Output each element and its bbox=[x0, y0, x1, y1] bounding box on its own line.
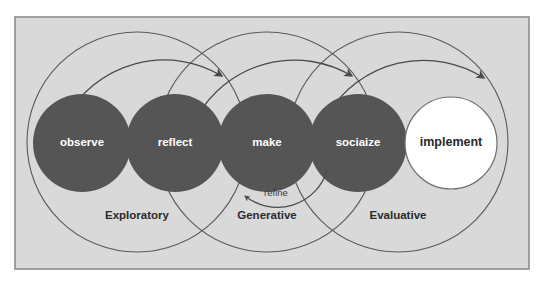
node-label-reflect: reflect bbox=[158, 136, 193, 148]
node-label-observe: observe bbox=[60, 136, 104, 148]
node-label-socialize: sociaize bbox=[336, 136, 381, 148]
node-reflect[interactable]: reflect bbox=[126, 94, 224, 192]
process-nodes: observe reflect make sociaize implement bbox=[33, 94, 497, 192]
phase-label-generative: Generative bbox=[237, 209, 296, 221]
phase-label-exploratory: Exploratory bbox=[105, 209, 170, 221]
edge-label-refine: refine bbox=[264, 187, 288, 198]
node-observe[interactable]: observe bbox=[33, 94, 131, 192]
node-label-implement: implement bbox=[420, 135, 483, 149]
node-label-make: make bbox=[252, 136, 281, 148]
phase-labels: Exploratory Generative Evaluative bbox=[105, 209, 426, 221]
node-socialize[interactable]: sociaize bbox=[309, 94, 407, 192]
phase-label-evaluative: Evaluative bbox=[370, 209, 427, 221]
node-make[interactable]: make bbox=[218, 94, 316, 192]
process-diagram: observe reflect make sociaize implement bbox=[0, 0, 544, 286]
diagram-root: observe reflect make sociaize implement bbox=[0, 0, 544, 286]
node-implement[interactable]: implement bbox=[405, 97, 497, 189]
